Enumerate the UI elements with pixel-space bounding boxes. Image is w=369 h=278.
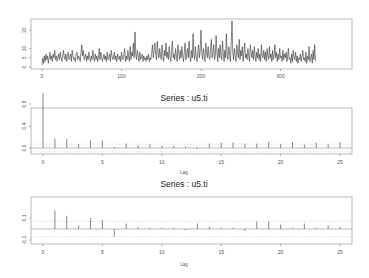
x-axis: 0100200300 <box>41 69 285 79</box>
y-tick-label: 0.1 <box>21 214 27 221</box>
y-tick-label: 10 <box>21 46 27 52</box>
y-tick-label: 5 <box>21 56 27 59</box>
x-tick-label: 20 <box>278 249 284 255</box>
x-tick-label: 0 <box>42 159 45 165</box>
y-tick-label: 0.8 <box>21 100 27 107</box>
chart-canvas: 051020 0100200300 Series : u5.ti 0510152… <box>0 0 369 278</box>
time-series-plot: 051020 0100200300 <box>21 19 352 79</box>
x-tick-label: 25 <box>337 249 343 255</box>
x-tick-label: 300 <box>276 73 285 79</box>
acf-plot: 05101520250.00.40.8 <box>21 93 352 165</box>
y-tick-label: 0 <box>21 65 27 68</box>
y-tick-label: 20 <box>21 27 27 33</box>
x-tick-label: 0 <box>41 73 44 79</box>
x-tick-label: 5 <box>101 159 104 165</box>
x-tick-label: 0 <box>42 249 45 255</box>
y-axis: 051020 <box>21 27 31 68</box>
x-tick-label: 5 <box>101 249 104 255</box>
series-line <box>42 21 316 65</box>
acf-xlabel: Lag <box>180 170 188 175</box>
acf-title: Series : u5.ti <box>160 93 207 103</box>
pacf-xlabel: Lag <box>180 262 188 267</box>
pacf-plot: 0510152025-0.10.1 <box>21 197 352 255</box>
y-tick-label: -0.1 <box>21 235 27 244</box>
x-tick-label: 20 <box>278 159 284 165</box>
x-tick-label: 100 <box>117 73 126 79</box>
y-tick-label: 0.4 <box>21 122 27 129</box>
x-tick-label: 200 <box>197 73 206 79</box>
x-tick-label: 10 <box>159 159 165 165</box>
x-tick-label: 25 <box>337 159 343 165</box>
plot-frame <box>31 19 352 69</box>
pacf-title: Series : u5.ti <box>160 179 207 189</box>
plot-frame <box>31 108 352 154</box>
x-tick-label: 15 <box>218 249 224 255</box>
y-tick-label: 0.0 <box>21 144 27 151</box>
x-tick-label: 15 <box>218 159 224 165</box>
x-tick-label: 10 <box>159 249 165 255</box>
